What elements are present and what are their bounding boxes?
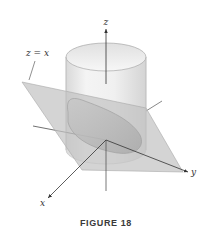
z-axis-label: z <box>103 17 109 27</box>
plane-label-leader <box>29 61 35 80</box>
figure-diagram: z y x z = x FIGURE 18 <box>0 0 208 232</box>
y-axis-upper-right <box>146 101 162 111</box>
x-axis-label: x <box>40 198 45 208</box>
figure-caption: FIGURE 18 <box>80 218 132 228</box>
y-axis-label: y <box>190 167 197 177</box>
plane-label: z = x <box>25 48 49 58</box>
